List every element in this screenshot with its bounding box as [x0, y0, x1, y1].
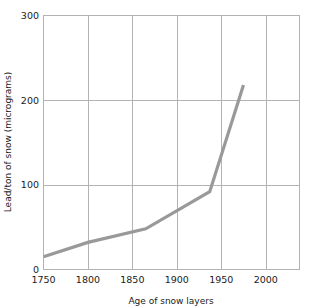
y-axis-title: Lead/ton of snow (micrograms) — [3, 72, 13, 213]
y-tick-label: 100 — [21, 179, 39, 190]
line-chart: 175018001850190019502000 0100200300 Age … — [0, 0, 320, 308]
chart-container: 175018001850190019502000 0100200300 Age … — [0, 0, 320, 308]
chart-background — [0, 0, 320, 308]
x-tick-label: 1950 — [209, 274, 233, 285]
x-axis-title: Age of snow layers — [128, 296, 214, 306]
x-tick-label: 2000 — [254, 274, 278, 285]
x-tick-label: 1900 — [165, 274, 189, 285]
x-tick-label: 1850 — [120, 274, 144, 285]
y-tick-label: 200 — [21, 95, 39, 106]
y-tick-label: 0 — [33, 264, 39, 275]
x-tick-label: 1750 — [31, 274, 55, 285]
x-tick-label: 1800 — [76, 274, 100, 285]
y-tick-label: 300 — [21, 10, 39, 21]
